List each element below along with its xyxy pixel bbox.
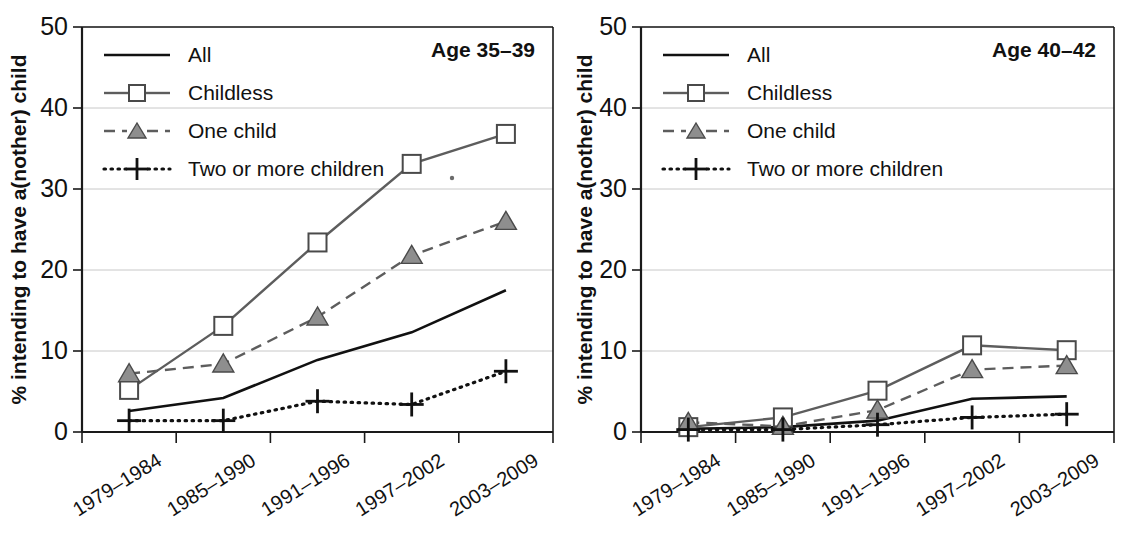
panel-title: Age 40–42 [992,38,1096,61]
plot-svg: 010203040501979–19841985–19901991–199619… [0,0,566,555]
y-tick-label: 30 [599,174,627,202]
data-point-triangle-marker [495,211,516,229]
legend-triangle-icon [128,123,146,138]
legend-square-icon [129,85,145,101]
plot-svg: 010203040501979–19841985–19901991–199619… [566,0,1133,555]
panel-title: Age 35–39 [431,38,535,61]
data-point-square-marker [214,317,232,335]
chart-figure: 010203040501979–19841985–19901991–199619… [0,0,1133,555]
legend-label-0: All [188,43,211,66]
legend-triangle-icon [687,123,705,138]
data-point-square-marker [309,233,327,251]
x-tick-label: 1985–1990 [163,449,260,521]
x-tick-label: 1979–1984 [628,449,725,521]
legend-label-3: Two or more children [188,157,384,180]
legend: AllChildlessOne childTwo or more childre… [663,43,943,180]
data-point-square-marker [497,125,515,143]
x-tick-label: 2003–2009 [1006,449,1103,521]
y-axis-title: % intending to have a(nother) child [7,54,30,404]
y-tick-label: 50 [40,12,68,40]
y-tick-label: 40 [40,93,68,121]
y-tick-label: 40 [599,93,627,121]
y-tick-label: 30 [40,174,68,202]
legend-label-3: Two or more children [747,157,943,180]
legend-label-1: Childless [747,81,832,104]
x-tick-label: 1991–1996 [817,449,914,521]
y-tick-label: 10 [40,336,68,364]
legend: AllChildlessOne childTwo or more childre… [104,43,384,180]
legend-label-1: Childless [188,81,273,104]
x-tick-label: 1997–2002 [912,449,1009,521]
y-axis-title: % intending to have a(nother) child [573,54,596,404]
data-point-square-marker [869,382,887,400]
y-tick-label: 20 [599,255,627,283]
data-point-triangle-marker [401,245,422,263]
legend-square-icon [688,85,704,101]
data-point-triangle-marker [213,354,234,372]
chart-panel-age-35-39: 010203040501979–19841985–19901991–199619… [0,0,566,555]
scan-speck [450,176,454,180]
y-tick-label: 0 [54,417,68,445]
legend-label-2: One child [747,119,836,142]
data-point-triangle-marker [962,360,983,378]
data-point-square-marker [963,336,981,354]
x-tick-label: 1979–1984 [69,449,166,521]
y-tick-label: 10 [599,336,627,364]
data-point-square-marker [120,381,138,399]
chart-panel-age-40-42: 010203040501979–19841985–19901991–199619… [566,0,1133,555]
data-point-square-marker [403,155,421,173]
x-tick-label: 1985–1990 [722,449,819,521]
data-point-triangle-marker [307,307,328,325]
legend-label-2: One child [188,119,277,142]
legend-label-0: All [747,43,770,66]
x-tick-label: 1991–1996 [257,449,354,521]
y-tick-label: 0 [613,417,627,445]
x-tick-label: 2003–2009 [445,449,542,521]
y-tick-label: 50 [599,12,627,40]
y-tick-label: 20 [40,255,68,283]
x-tick-label: 1997–2002 [351,449,448,521]
